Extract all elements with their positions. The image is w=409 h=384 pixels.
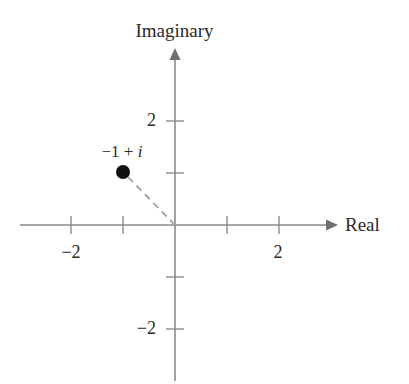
point-label-imaginary-unit: i [138, 142, 143, 161]
x-tick-label-neg2: −2 [56, 243, 86, 261]
plotted-point-marker [116, 165, 130, 179]
imaginary-axis-arrow-icon [170, 48, 181, 60]
point-label-prefix: −1 + [102, 142, 138, 161]
complex-plane-figure: Imaginary Real 2 −2 −2 2 −1 + i [0, 0, 409, 384]
imaginary-axis-title: Imaginary [0, 21, 349, 40]
y-tick-label-neg2: −2 [126, 319, 156, 337]
real-axis-arrow-icon [326, 220, 338, 231]
real-axis-title: Real [345, 215, 380, 234]
point-label: −1 + i [85, 143, 159, 160]
y-tick-label-2: 2 [132, 111, 156, 129]
origin-to-point-dashed-line [125, 174, 175, 225]
complex-plane-plot [0, 0, 409, 384]
x-tick-label-2: 2 [266, 243, 290, 261]
